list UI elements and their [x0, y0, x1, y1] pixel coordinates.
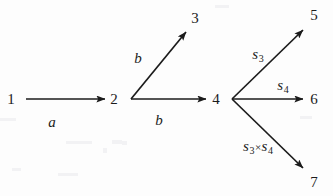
- diagram-canvas: [0, 0, 333, 196]
- edge-label-s3-times-s4: s3×s4: [243, 139, 273, 154]
- node-label-5: 5: [310, 8, 318, 23]
- node-label-2: 2: [110, 92, 118, 107]
- edge-4-to-5: [232, 30, 303, 99]
- edge-label-s4: s4: [277, 78, 288, 93]
- edge-2-to-3: [131, 32, 186, 99]
- edge-label-b-upper: b: [134, 51, 142, 66]
- edge-label-a: a: [48, 115, 56, 130]
- edge-4-to-7: [232, 99, 303, 168]
- transition-diagram-figure: 1 2 3 4 5 6 7 a b b s3 s4 s3×s4: [0, 0, 333, 196]
- edge-label-s3: s3: [252, 47, 263, 62]
- node-label-1: 1: [7, 92, 15, 107]
- node-label-6: 6: [310, 92, 318, 107]
- node-label-7: 7: [310, 175, 318, 190]
- node-label-3: 3: [191, 11, 199, 26]
- edge-label-b-lower: b: [155, 113, 163, 128]
- node-label-4: 4: [212, 92, 220, 107]
